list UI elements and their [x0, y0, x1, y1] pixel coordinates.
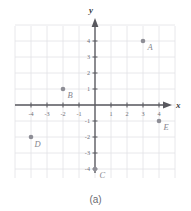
coordinate-plane-figure: -4-3-2-112344321-1-2-3-4 ABCDE x y (a) [0, 0, 191, 211]
x-tick-label: -2 [60, 110, 65, 117]
plot-area: -4-3-2-112344321-1-2-3-4 ABCDE x y [0, 0, 191, 188]
point-label-c: C [100, 170, 106, 180]
y-tick-label: 2 [87, 69, 90, 76]
y-tick-label: 3 [87, 53, 90, 60]
data-point-a [141, 39, 146, 44]
x-tick-label: -4 [28, 110, 33, 117]
x-tick-label: 3 [141, 110, 144, 117]
figure-caption: (a) [0, 188, 191, 211]
y-tick-label: -1 [85, 117, 90, 124]
point-label-a: A [147, 42, 154, 52]
y-tick-label: -3 [85, 149, 90, 156]
x-tick-label: 4 [157, 110, 160, 117]
x-tick-label: -3 [44, 110, 49, 117]
y-axis-arrowhead [92, 18, 99, 27]
x-tick-label: 1 [109, 110, 112, 117]
data-point-e [157, 119, 162, 124]
point-label-b: B [68, 90, 73, 100]
x-tick-label: 2 [125, 110, 128, 117]
x-axis-arrowhead [163, 102, 172, 109]
y-tick-label: -2 [85, 133, 90, 140]
y-axis-label: y [88, 5, 94, 15]
data-point-b [61, 87, 66, 92]
point-label-e: E [163, 122, 170, 132]
x-axis-label: x [175, 100, 181, 110]
y-tick-label: 4 [87, 37, 90, 44]
point-label-d: D [34, 139, 42, 149]
y-tick-label: -4 [85, 165, 90, 172]
coordinate-grid-svg: -4-3-2-112344321-1-2-3-4 ABCDE x y [0, 0, 191, 188]
y-tick-label: 1 [87, 85, 90, 92]
data-point-d [29, 135, 34, 140]
x-tick-label: -1 [76, 110, 81, 117]
data-points-group: ABCDE [29, 39, 170, 180]
data-point-c [93, 167, 98, 172]
